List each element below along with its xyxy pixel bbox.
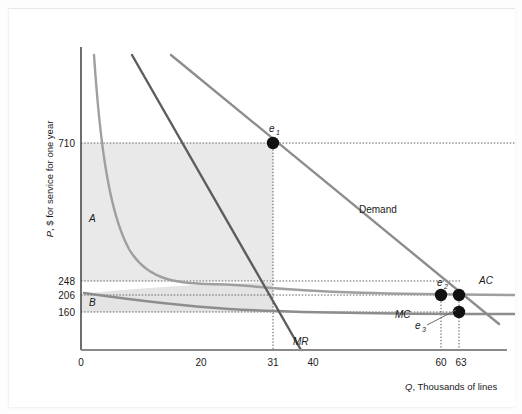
label-e3: e 3 [415, 320, 426, 333]
shaded-region-a [81, 143, 273, 281]
y-axis-title: P, $ for service for one year [44, 121, 55, 238]
y-axis-title-rest: , $ for service for one year [44, 121, 55, 231]
x-tick-60: 60 [435, 357, 447, 368]
y-tick-206: 206 [58, 290, 75, 301]
x-tick-0: 0 [78, 357, 84, 368]
label-e2-main: e [437, 277, 443, 288]
point-e2[interactable] [435, 289, 447, 301]
label-e3-sub: 3 [422, 326, 426, 333]
x-axis-title-rest: , Thousands of lines [412, 381, 497, 392]
label-e2-sub: 2 [443, 283, 448, 290]
mr-label: MR [293, 336, 309, 347]
label-e1-sub: 1 [276, 129, 280, 136]
x-tick-63: 63 [455, 357, 467, 368]
point-e1[interactable] [267, 137, 279, 149]
label-e2: e 2 [437, 277, 448, 290]
figure-card: e 1 e 2 e 3 Demand MR AC MC A B 710 248 … [8, 8, 515, 407]
economics-chart-svg: e 1 e 2 e 3 Demand MR AC MC A B 710 248 … [9, 9, 515, 407]
point-e3[interactable] [453, 306, 465, 318]
x-tick-20: 20 [195, 357, 207, 368]
label-e3-main: e [415, 320, 421, 331]
x-axis-title: Q, Thousands of lines [405, 381, 497, 392]
y-tick-248: 248 [58, 276, 75, 287]
demand-label: Demand [359, 204, 397, 215]
x-tick-31: 31 [267, 357, 279, 368]
ac-label: AC [478, 275, 494, 286]
label-e1: e 1 [269, 123, 280, 136]
figure-page: e 1 e 2 e 3 Demand MR AC MC A B 710 248 … [0, 0, 522, 414]
label-e1-main: e [269, 123, 275, 134]
y-tick-710: 710 [58, 138, 75, 149]
y-tick-160: 160 [58, 307, 75, 318]
mc-label: MC [395, 309, 411, 320]
point-e2b[interactable] [453, 289, 465, 301]
region-a-label: A [88, 213, 96, 224]
region-b-label: B [89, 297, 96, 308]
x-tick-40: 40 [307, 357, 319, 368]
